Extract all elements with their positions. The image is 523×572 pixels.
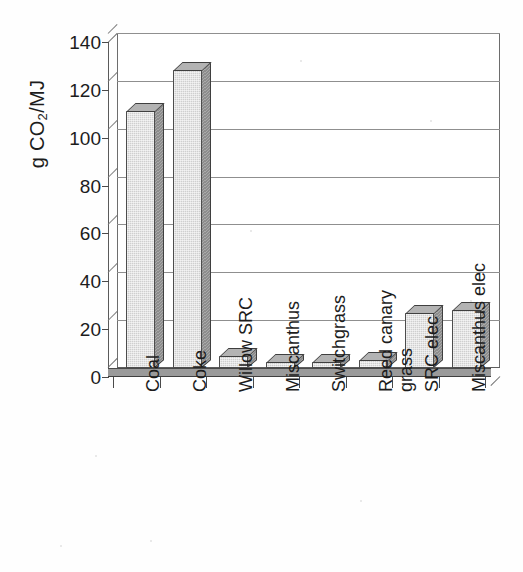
x-axis-label: Coal — [143, 355, 163, 392]
bar-chart: g CO2/MJ 020406080100120140 CoalCokeWill… — [0, 0, 523, 572]
scan-speckle — [430, 120, 432, 122]
y-axis-tick-label: 140 — [55, 33, 101, 52]
x-axis-label: Coke — [190, 350, 210, 392]
x-axis-labels: CoalCokeWillow SRCMiscanthusSwitchgrassR… — [108, 392, 500, 572]
bar — [126, 103, 164, 368]
x-axis-label: Willow SRC — [236, 297, 256, 392]
y-axis-title: g CO2/MJ — [26, 49, 50, 199]
x-axis-label: Reed canarygrass — [376, 290, 416, 392]
scan-speckle — [95, 455, 97, 457]
scan-speckle — [360, 500, 362, 502]
scan-speckle — [60, 545, 62, 547]
bar-side-face — [201, 62, 211, 368]
y-axis-tick-label: 80 — [55, 176, 101, 195]
y-axis-tick-label: 0 — [55, 368, 101, 387]
x-axis-label: Miscanthus elec — [469, 263, 489, 392]
scan-speckle — [150, 540, 152, 542]
bar-front-face — [126, 111, 155, 368]
x-axis-label: SRC elec — [422, 316, 442, 392]
x-axis-label: Miscanthus — [283, 301, 303, 392]
y-axis-tick-label: 120 — [55, 80, 101, 99]
bar-side-face — [154, 103, 164, 368]
y-axis-tick-labels: 020406080100120140 — [55, 0, 101, 572]
scan-speckle — [300, 60, 302, 62]
y-axis-tick-label: 60 — [55, 224, 101, 243]
x-axis-tick — [113, 377, 114, 388]
y-axis-tick-label: 20 — [55, 320, 101, 339]
x-axis-label: Switchgrass — [329, 295, 349, 392]
y-axis-tick-label: 100 — [55, 128, 101, 147]
scan-speckle — [470, 300, 472, 302]
y-axis-tick-label: 40 — [55, 272, 101, 291]
bar-front-face — [173, 70, 202, 368]
bar — [173, 62, 211, 368]
scan-speckle — [250, 230, 252, 232]
